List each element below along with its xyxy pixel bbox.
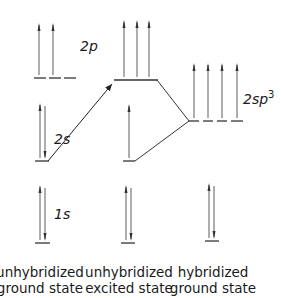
col3-1s-level: [205, 183, 219, 241]
column-label-hybridized-ground: hybridized ground state: [168, 264, 258, 296]
hybridization-line-lower: [135, 121, 189, 161]
column-label-unhybridized-excited: unhybridized excited state: [84, 264, 174, 296]
column-label-line1: unhybridized: [84, 264, 174, 280]
label-2s: 2s: [54, 131, 70, 147]
column-label-line2: excited state: [84, 280, 174, 296]
label-2p: 2p: [80, 38, 98, 54]
column-label-line1: hybridized: [168, 264, 258, 280]
col2-2p-level: [114, 20, 158, 80]
orbital-diagram: [0, 0, 281, 298]
col3-sp3-level: [189, 63, 243, 121]
label-2sp3-base: 2sp: [243, 91, 268, 107]
col2-1s-level: [121, 185, 135, 243]
column-label-unhybridized-ground: unhybridized ground state: [0, 264, 85, 296]
col1-2p-level: [34, 23, 76, 78]
label-2sp3-superscript: 3: [268, 89, 274, 100]
hybridization-line-upper: [157, 80, 189, 121]
label-2sp3: 2sp3: [243, 89, 274, 107]
promotion-arrow: [48, 84, 112, 161]
col1-2s-level: [35, 103, 49, 161]
column-label-line2: ground state: [168, 280, 258, 296]
column-label-line2: ground state: [0, 280, 85, 296]
col2-2s-level: [123, 104, 135, 161]
column-label-line1: unhybridized: [0, 264, 85, 280]
col1-1s-level: [35, 185, 50, 243]
label-1s: 1s: [54, 206, 70, 222]
